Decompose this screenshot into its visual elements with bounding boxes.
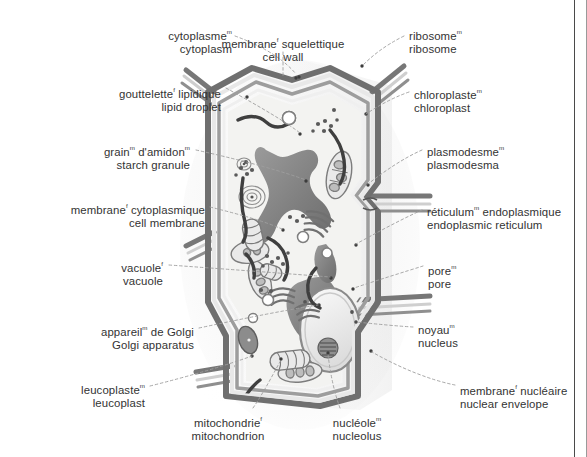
label-cell-membrane: membranef cytoplasmique cell membrane [25, 200, 205, 230]
diagram-canvas: cytoplasmem cytoplasm membranef squelett… [0, 0, 587, 457]
label-golgi-apparatus: appareilm de Golgi Golgi apparatus [74, 322, 194, 352]
label-mitochondrion-fr: mitochondrief [158, 413, 298, 430]
label-mitochondrion: mitochondrief mitochondrion [158, 413, 298, 443]
label-cell-wall-en: cell wall [203, 51, 363, 64]
nucleolus-body [318, 338, 338, 358]
label-pore-fr: porem [428, 261, 498, 278]
label-starch-granule-fr: grainm d'amidonm [60, 142, 190, 159]
label-pore: porem pore [428, 261, 498, 291]
label-endoplasmic-reticulum-fr: réticulumm endoplasmique [427, 202, 587, 219]
label-vacuole-en: vacuole [93, 275, 163, 288]
label-lipid-droplet: gouttelettef lipidique lipid droplet [55, 84, 221, 114]
label-chloroplast-fr: chloroplastem [414, 85, 544, 102]
label-nuclear-envelope-fr: membranef nucléaire [460, 381, 587, 398]
label-golgi-apparatus-en: Golgi apparatus [74, 339, 194, 352]
label-ribosome-en: ribosome [409, 43, 529, 56]
label-endoplasmic-reticulum: réticulumm endoplasmique endoplasmic ret… [427, 202, 587, 232]
label-leucoplast-fr: leucoplastem [40, 380, 145, 397]
label-vacuole-fr: vacuolef [93, 258, 163, 275]
label-endoplasmic-reticulum-en: endoplasmic reticulum [427, 219, 587, 232]
label-cell-membrane-fr: membranef cytoplasmique [25, 200, 205, 217]
label-ribosome: ribosomem ribosome [409, 26, 529, 56]
label-lipid-droplet-fr: gouttelettef lipidique [55, 84, 221, 101]
label-cell-wall: membranef squelettique cell wall [203, 34, 363, 64]
label-cell-wall-fr: membranef squelettique [203, 34, 363, 51]
label-nucleus-fr: noyaum [418, 320, 508, 337]
label-chloroplast: chloroplastem chloroplast [414, 85, 544, 115]
label-starch-granule-en: starch granule [60, 159, 190, 172]
label-ribosome-fr: ribosomem [409, 26, 529, 43]
label-golgi-apparatus-fr: appareilm de Golgi [74, 322, 194, 339]
label-nucleolus-en: nucleolus [297, 430, 417, 443]
page-frame-right-line [574, 0, 575, 457]
label-nucleus: noyaum nucleus [418, 320, 508, 350]
label-lipid-droplet-en: lipid droplet [55, 101, 221, 114]
label-plasmodesma-fr: plasmodesmem [427, 142, 557, 159]
label-chloroplast-en: chloroplast [414, 102, 544, 115]
label-vacuole: vacuolef vacuole [93, 258, 163, 288]
label-nuclear-envelope-en: nuclear envelope [460, 398, 587, 411]
label-plasmodesma: plasmodesmem plasmodesma [427, 142, 557, 172]
label-nucleus-en: nucleus [418, 337, 508, 350]
label-pore-en: pore [428, 278, 498, 291]
label-cell-membrane-en: cell membrane [25, 217, 205, 230]
label-mitochondrion-en: mitochondrion [158, 430, 298, 443]
label-starch-granule: grainm d'amidonm starch granule [60, 142, 190, 172]
label-nucleolus: nucléolem nucleolus [297, 413, 417, 443]
label-plasmodesma-en: plasmodesma [427, 159, 557, 172]
label-leucoplast-en: leucoplast [40, 397, 145, 410]
label-nucleolus-fr: nucléolem [297, 413, 417, 430]
label-leucoplast: leucoplastem leucoplast [40, 380, 145, 410]
label-nuclear-envelope: membranef nucléaire nuclear envelope [460, 381, 587, 411]
